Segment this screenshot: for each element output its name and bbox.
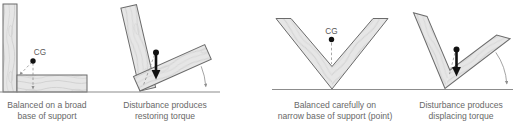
cg-to-corner-dashed-line xyxy=(20,62,32,75)
caption-line-2: displacing torque xyxy=(429,111,494,121)
upright-plank xyxy=(3,4,17,92)
panel-point-base-disturbed: Disturbance produces displacing torque xyxy=(397,13,510,121)
cg-label: CG xyxy=(34,48,46,57)
caption-line-1: Balanced carefully on xyxy=(294,100,376,110)
panel-point-base-balanced: CG Balanced carefully on narrow base of … xyxy=(276,19,392,121)
panel-broad-base-balanced: CG Balanced on a broad base of support xyxy=(3,4,87,121)
caption-line-2: restoring torque xyxy=(135,111,195,121)
restoring-rotation-arc xyxy=(201,66,206,86)
caption-line-2: base of support xyxy=(17,111,77,121)
panel-broad-base-disturbed: Disturbance produces restoring torque xyxy=(121,5,211,121)
caption-line-1: Balanced on a broad xyxy=(7,100,87,110)
cg-label: CG xyxy=(325,27,337,36)
stability-diagram-canvas: CG Balanced on a broad base of support D… xyxy=(0,0,513,135)
v-block-outline-tilted xyxy=(397,13,510,102)
cg-dot xyxy=(454,47,460,53)
caption-line-1: Disturbance produces xyxy=(419,100,503,110)
cg-dot xyxy=(153,50,159,56)
stability-figure: CG Balanced on a broad base of support D… xyxy=(0,0,513,135)
base-plank xyxy=(17,75,87,92)
cg-dot xyxy=(329,37,334,42)
cg-dot xyxy=(30,58,35,63)
displacing-rotation-arc xyxy=(496,52,507,83)
caption-line-2: narrow base of support (point) xyxy=(278,111,393,121)
caption-line-1: Disturbance produces xyxy=(123,100,207,110)
